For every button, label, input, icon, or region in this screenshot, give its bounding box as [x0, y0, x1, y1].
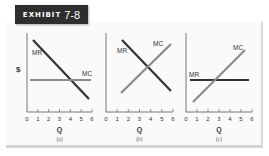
- charts-svg: MR MC 01 23 45 6 Q (a) MR MC 01 23 45 6 …: [0, 0, 269, 156]
- panel-label: (c): [216, 136, 222, 143]
- svg-text:4: 4: [149, 116, 153, 122]
- x-tick-labels: 01 23 45 6: [25, 116, 94, 122]
- x-ticks: [117, 109, 173, 112]
- svg-text:3: 3: [58, 116, 62, 122]
- x-axis-label: Q: [57, 126, 63, 134]
- svg-text:2: 2: [127, 116, 131, 122]
- svg-text:1: 1: [195, 116, 199, 122]
- chart-panel-a: MR MC 01 23 45 6 Q (a): [25, 33, 94, 143]
- panel-label: (b): [136, 136, 143, 143]
- svg-text:4: 4: [69, 116, 73, 122]
- svg-text:4: 4: [228, 116, 232, 122]
- svg-text:3: 3: [138, 116, 142, 122]
- mc-label: MC: [233, 44, 243, 51]
- mc-label: MC: [153, 40, 163, 47]
- panel-label: (a): [56, 136, 62, 143]
- svg-text:2: 2: [47, 116, 51, 122]
- svg-text:0: 0: [25, 116, 29, 122]
- mr-label: MR: [117, 47, 127, 54]
- chart-panel-b: MR MC 01 23 45 6 Q (b): [104, 33, 175, 143]
- mc-label: MC: [82, 70, 92, 77]
- x-ticks: [38, 109, 92, 112]
- mc-line: [193, 50, 245, 102]
- svg-text:1: 1: [116, 116, 120, 122]
- mc-line: [121, 44, 171, 93]
- svg-text:3: 3: [217, 116, 221, 122]
- x-ticks: [197, 109, 252, 112]
- x-tick-labels: 01 23 45 6: [184, 116, 254, 122]
- mr-label: MR: [32, 49, 42, 56]
- svg-text:0: 0: [104, 116, 108, 122]
- svg-text:0: 0: [184, 116, 188, 122]
- svg-text:2: 2: [206, 116, 210, 122]
- svg-text:6: 6: [90, 116, 94, 122]
- svg-text:5: 5: [79, 116, 83, 122]
- svg-text:5: 5: [160, 116, 164, 122]
- svg-text:1: 1: [36, 116, 40, 122]
- x-axis-label: Q: [137, 126, 143, 134]
- svg-text:6: 6: [250, 116, 254, 122]
- x-tick-labels: 01 23 45 6: [104, 116, 175, 122]
- x-axis-label: Q: [216, 126, 222, 134]
- svg-text:6: 6: [171, 116, 175, 122]
- chart-panel-c: MR MC 01 23 45 6 Q (c): [184, 33, 254, 143]
- svg-text:5: 5: [239, 116, 243, 122]
- mr-label: MR: [189, 71, 199, 78]
